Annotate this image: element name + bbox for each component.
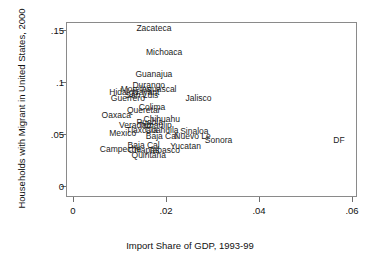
x-axis-label: Import Share of GDP, 1993-99: [0, 240, 380, 251]
data-point-label: Zacateca: [136, 23, 171, 32]
data-point-label: Mexico: [109, 128, 136, 137]
y-axis-label: Households with Migrant in United States…: [16, 4, 27, 214]
x-axis-tick: [166, 197, 167, 202]
x-axis-tick-label: .06: [345, 205, 358, 216]
x-axis-tick-label: 0: [70, 205, 75, 216]
y-axis-tick-label: .05: [51, 129, 64, 140]
x-axis-tick: [259, 197, 260, 202]
x-axis-tick: [352, 197, 353, 202]
data-point-label: DF: [333, 136, 344, 145]
x-axis-tick: [73, 197, 74, 202]
y-axis-tick-label: 0: [59, 181, 64, 192]
y-axis-tick-label: .15: [51, 25, 64, 36]
x-axis-tick-label: .04: [252, 205, 265, 216]
x-axis-tick-label: .02: [159, 205, 172, 216]
data-point-label: Sonora: [205, 136, 232, 145]
data-point-label: Oaxaca: [102, 110, 131, 119]
data-point-label: Quintana: [132, 150, 167, 159]
y-axis-tick-label: .1: [56, 77, 64, 88]
data-point-label: Michoaca: [146, 48, 182, 57]
scatter-chart: Households with Migrant in United States…: [0, 0, 380, 270]
data-point-label: Jalisco: [186, 94, 212, 103]
data-point-label: Guanajua: [135, 70, 172, 79]
